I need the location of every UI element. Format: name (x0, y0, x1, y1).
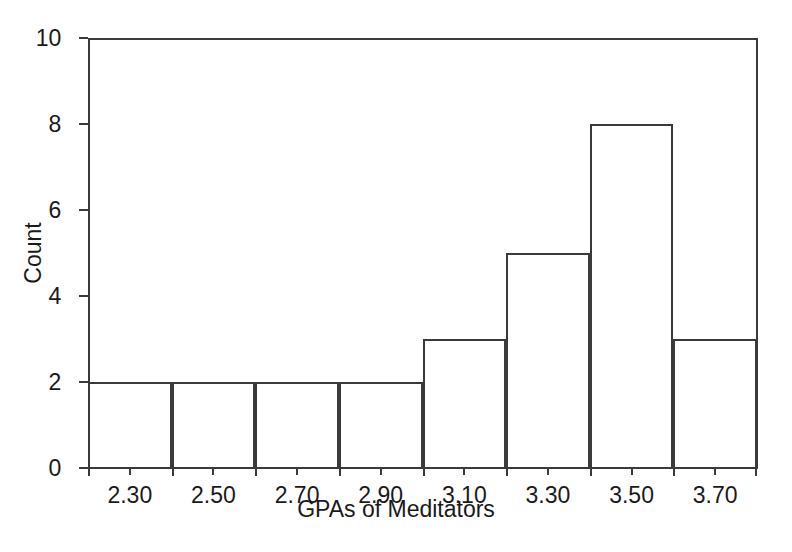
histogram-bar (88, 382, 172, 468)
x-tick-mark-minor (380, 469, 382, 475)
histogram-bar (506, 253, 590, 468)
x-tick-mark-minor (547, 469, 549, 475)
y-axis-title: Count (14, 38, 52, 468)
plot-frame-top (88, 38, 758, 40)
histogram-bar (590, 124, 674, 468)
x-tick-mark-major (339, 467, 341, 476)
x-tick-mark-major (423, 467, 425, 476)
y-tick-mark (79, 467, 88, 469)
x-tick-mark-minor (463, 469, 465, 475)
histogram-bar (423, 339, 507, 468)
x-tick-mark-minor (296, 469, 298, 475)
x-tick-mark-major (506, 467, 508, 476)
histogram-bar (339, 382, 423, 468)
histogram-figure: 0 2 4 6 8 10 2.30 2.50 2.70 2.90 3.10 3.… (0, 0, 792, 552)
y-tick-mark (79, 209, 88, 211)
x-tick-mark-major (590, 467, 592, 476)
y-tick-mark (79, 381, 88, 383)
x-tick-mark-major (88, 467, 90, 476)
x-tick-mark-minor (212, 469, 214, 475)
y-tick-mark (79, 295, 88, 297)
x-axis-title: GPAs of Meditators (0, 496, 792, 523)
y-tick-mark (79, 123, 88, 125)
histogram-bar (172, 382, 256, 468)
x-tick-mark-minor (631, 469, 633, 475)
histogram-bar (255, 382, 339, 468)
x-tick-mark-major (255, 467, 257, 476)
histogram-bar (673, 339, 757, 468)
y-tick-mark (79, 37, 88, 39)
x-tick-mark-major (172, 467, 174, 476)
x-tick-mark-minor (129, 469, 131, 475)
x-tick-mark-minor (714, 469, 716, 475)
x-tick-mark-major (673, 467, 675, 476)
x-tick-mark-major (755, 467, 757, 476)
plot-area: 0 2 4 6 8 10 2.30 2.50 2.70 2.90 3.10 3.… (88, 38, 757, 468)
